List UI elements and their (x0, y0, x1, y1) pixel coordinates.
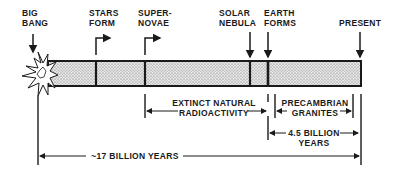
label-universe-age: ~17 BILLION YEARS (88, 151, 182, 161)
label-line: PRESENT (339, 18, 381, 28)
label-present: PRESENT (339, 18, 381, 28)
label-line: SOLAR (219, 8, 256, 18)
label-solar-nebula: SOLAR NEBULA (219, 8, 256, 28)
label-stars-form: STARS FORM (89, 8, 119, 28)
label-line: RADIOACTIVITY (164, 108, 264, 118)
label-line: BANG (22, 18, 48, 28)
label-line: FORM (89, 18, 119, 28)
label-line: NEBULA (219, 18, 256, 28)
label-line: PRECAMBRIAN (279, 98, 351, 108)
big-bang-burst-icon (22, 52, 58, 96)
label-earth-age: 4.5 BILLION YEARS (284, 128, 344, 148)
label-line: SUPER- (138, 8, 172, 18)
label-line: EARTH (264, 8, 296, 18)
supernovae-arrow-icon (145, 38, 160, 55)
timeline-bar (48, 61, 361, 86)
label-line: ~17 BILLION YEARS (88, 151, 182, 161)
label-line: FORMS (264, 18, 296, 28)
label-supernovae: SUPER- NOVAE (138, 8, 172, 28)
label-line: BIG (22, 8, 48, 18)
stars-form-arrow-icon (96, 38, 110, 55)
label-line: EXTINCT NATURAL (164, 98, 264, 108)
label-line: NOVAE (138, 18, 172, 28)
label-line: GRANITES (279, 108, 351, 118)
label-precambrian-granites: PRECAMBRIAN GRANITES (279, 98, 351, 118)
label-line: 4.5 BILLION (284, 128, 344, 138)
label-extinct-radioactivity: EXTINCT NATURAL RADIOACTIVITY (164, 98, 264, 118)
label-earth-forms: EARTH FORMS (264, 8, 296, 28)
label-big-bang: BIG BANG (22, 8, 48, 28)
label-line: YEARS (284, 138, 344, 148)
label-line: STARS (89, 8, 119, 18)
